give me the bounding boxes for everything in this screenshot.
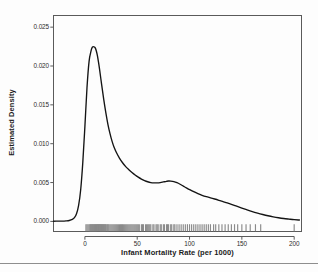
y-tick-label: 0.015 bbox=[15, 101, 49, 108]
density-plot-figure: Estimated Density Infant Mortality Rate … bbox=[0, 0, 318, 272]
x-tick-label: 100 bbox=[178, 240, 202, 247]
x-tick-label: 200 bbox=[282, 240, 306, 247]
y-tick-label: 0.000 bbox=[15, 217, 49, 224]
x-axis-title: Infant Mortality Rate (per 1000) bbox=[53, 248, 302, 257]
y-axis-title-wrap: Estimated Density bbox=[2, 0, 20, 245]
plot-canvas bbox=[0, 0, 318, 272]
y-tick-label: 0.020 bbox=[15, 62, 49, 69]
footer-rule bbox=[0, 263, 318, 264]
y-tick-label: 0.025 bbox=[15, 23, 49, 30]
x-tick-label: 0 bbox=[73, 240, 97, 247]
rug-plot bbox=[86, 224, 294, 231]
x-tick-label: 50 bbox=[125, 240, 149, 247]
plot-frame bbox=[54, 16, 302, 232]
y-tick-label: 0.010 bbox=[15, 140, 49, 147]
x-tick-label: 150 bbox=[230, 240, 254, 247]
y-tick-label: 0.005 bbox=[15, 179, 49, 186]
plot-border bbox=[54, 16, 302, 232]
density-curve bbox=[54, 47, 300, 222]
